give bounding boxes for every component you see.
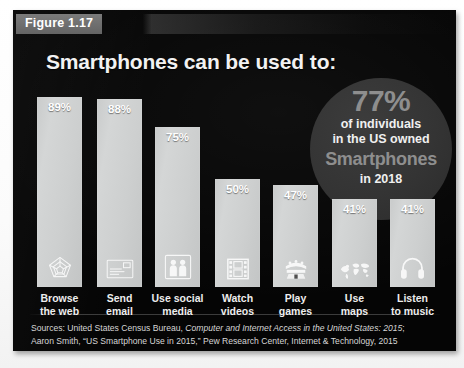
world-map-icon	[332, 261, 377, 281]
bar-value-label: 41%	[390, 203, 435, 215]
footer-divider	[30, 314, 440, 315]
arcade-game-icon	[273, 255, 318, 281]
bar-watch-videos[interactable]: 50%	[215, 179, 260, 287]
bar-label-line-1: Use social	[152, 292, 204, 304]
sources-note: Sources: United States Census Bureau, Co…	[31, 322, 443, 348]
sources-line-1-prefix: Sources: United States Census Bureau,	[31, 323, 185, 333]
bar-label-line-1: Use	[345, 292, 364, 304]
bar-column-use-maps: 41% Use m	[332, 199, 377, 287]
envelope-icon	[97, 257, 142, 281]
bar-use-maps[interactable]: 41%	[332, 199, 377, 287]
bar-value-label: 50%	[215, 183, 260, 195]
bar-chart: 89%	[13, 10, 456, 351]
bar-column-watch-videos: 50%	[215, 179, 260, 287]
bar-column-play-games: 47% Play	[273, 185, 318, 287]
bar-listen-to-music[interactable]: 41%	[390, 199, 435, 287]
sources-report-title: Computer and Internet Access in the Unit…	[185, 323, 402, 333]
sources-line-2: Aaron Smith, “US Smartphone Use in 2015,…	[31, 336, 398, 346]
figure-panel: Figure 1.17 Smartphones can be used to: …	[13, 10, 456, 351]
bar-label-line-1: Send	[107, 292, 133, 304]
bar-column-use-social-media: 75% Use social media	[155, 127, 200, 287]
figure-container: Figure 1.17 Smartphones can be used to: …	[0, 0, 464, 368]
bar-column-listen-to-music: 41% Listen to music	[390, 199, 435, 287]
bar-column-send-email: 88% Send email	[97, 99, 142, 287]
bar-label-line-1: Play	[285, 292, 307, 304]
bar-play-games[interactable]: 47%	[273, 185, 318, 287]
bar-value-label: 41%	[332, 203, 377, 215]
headphones-icon	[390, 255, 435, 281]
film-strip-icon	[215, 257, 260, 281]
sources-line-1-suffix: ;	[402, 323, 404, 333]
bar-value-label: 75%	[155, 131, 200, 143]
bar-browse-the-web[interactable]: 89%	[37, 97, 82, 287]
globe-web-icon	[37, 253, 82, 281]
bar-value-label: 89%	[37, 101, 82, 113]
bar-label-line-1: Listen	[397, 292, 428, 304]
bar-column-browse-the-web: 89%	[37, 97, 82, 287]
people-icon	[155, 253, 200, 281]
bar-use-social-media[interactable]: 75%	[155, 127, 200, 287]
bar-label-line-1: Watch	[222, 292, 253, 304]
bar-value-label: 88%	[97, 103, 142, 115]
bar-send-email[interactable]: 88%	[97, 99, 142, 287]
bar-label-line-1: Browse	[41, 292, 79, 304]
bar-value-label: 47%	[273, 189, 318, 201]
